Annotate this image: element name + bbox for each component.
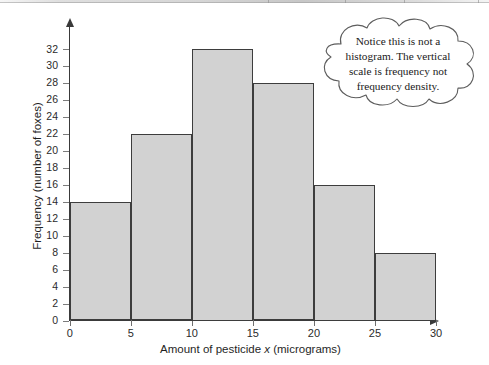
x-tick-label: 25 xyxy=(355,328,395,339)
x-tick-label: 15 xyxy=(233,328,273,339)
callout-line-1: Notice this is not a xyxy=(329,34,467,49)
callout-line-2: histogram. The vertical xyxy=(329,49,467,64)
y-tick-mark xyxy=(63,202,69,203)
y-tick-mark xyxy=(63,83,69,84)
y-tick-mark xyxy=(63,219,69,220)
bar xyxy=(314,185,375,321)
y-tick-mark xyxy=(63,253,69,254)
bar xyxy=(253,83,314,321)
y-tick-mark xyxy=(63,117,69,118)
x-tick-label: 20 xyxy=(294,328,334,339)
x-tick-mark xyxy=(131,320,132,326)
callout-line-4: frequency density. xyxy=(329,79,467,94)
x-tick-label: 10 xyxy=(172,328,212,339)
y-tick-label: 2 xyxy=(36,298,58,309)
y-tick-mark xyxy=(63,185,69,186)
figure-page: 02468101214161820222426283032 0510152025… xyxy=(0,0,489,365)
y-tick-mark xyxy=(63,287,69,288)
callout-line-3: scale is frequency not xyxy=(329,64,467,79)
x-tick-mark xyxy=(192,320,193,326)
bar xyxy=(70,202,131,321)
callout-text: Notice this is not a histogram. The vert… xyxy=(329,34,467,94)
y-tick-mark xyxy=(63,270,69,271)
y-tick-mark xyxy=(63,66,69,67)
y-axis-title: Frequency (number of foxes) xyxy=(31,76,43,276)
bar xyxy=(131,134,192,321)
x-tick-mark xyxy=(253,320,254,326)
callout-cloud: Notice this is not a histogram. The vert… xyxy=(311,14,483,110)
bar xyxy=(375,253,436,321)
y-tick-mark xyxy=(63,321,69,322)
x-axis-title-suffix: (micrograms) xyxy=(270,343,341,355)
x-axis-title: Amount of pesticide x (micrograms) xyxy=(69,343,432,355)
y-tick-label: 30 xyxy=(36,60,58,71)
y-tick-mark xyxy=(63,168,69,169)
y-tick-mark xyxy=(63,134,69,135)
x-tick-label: 5 xyxy=(111,328,151,339)
y-tick-mark xyxy=(63,151,69,152)
y-tick-label: 0 xyxy=(36,315,58,326)
y-tick-label: 32 xyxy=(36,44,58,55)
y-tick-label: 4 xyxy=(36,281,58,292)
y-axis-arrow-icon xyxy=(66,18,74,27)
x-tick-mark xyxy=(375,320,376,326)
x-tick-mark xyxy=(70,320,71,326)
x-tick-mark xyxy=(436,320,437,326)
y-tick-mark xyxy=(63,236,69,237)
y-tick-mark xyxy=(63,100,69,101)
x-tick-label: 0 xyxy=(50,328,90,339)
y-tick-mark xyxy=(63,49,69,50)
bar xyxy=(192,49,253,321)
x-axis-title-prefix: Amount of pesticide xyxy=(160,343,264,355)
x-tick-mark xyxy=(314,320,315,326)
x-tick-label: 30 xyxy=(416,328,456,339)
y-tick-mark xyxy=(63,304,69,305)
